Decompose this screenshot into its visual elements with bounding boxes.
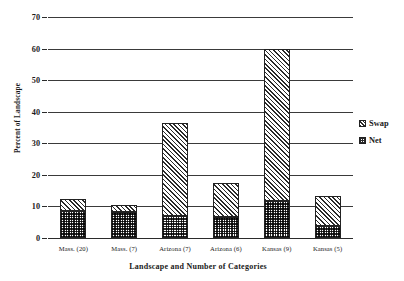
- legend-swatch-net-icon: [359, 137, 366, 144]
- bar-segment-swap: [264, 49, 290, 201]
- y-axis-tick-label: 60: [32, 44, 40, 53]
- bar-segment-swap: [315, 196, 341, 226]
- y-axis-tick: [42, 49, 47, 50]
- x-axis-tick-label: Arizona (6): [210, 245, 242, 252]
- gridline: [48, 112, 353, 113]
- gridline: [48, 80, 353, 81]
- x-axis-title: Landscape and Number of Categories: [38, 262, 358, 271]
- bar-segment-swap: [162, 123, 188, 216]
- bar-segment-net: [60, 211, 86, 238]
- y-axis-tick-label: 70: [32, 13, 40, 22]
- gridline: [48, 206, 353, 207]
- plot-area: 010203040506070 Mass. (20)Mass. (7)Arizo…: [48, 17, 353, 238]
- bar-segment-swap: [111, 205, 137, 213]
- legend-item-swap: Swap: [359, 116, 404, 130]
- legend-label-swap: Swap: [369, 119, 389, 128]
- y-axis-tick-label: 30: [32, 139, 40, 148]
- bar-group: Kansas (9): [264, 17, 290, 238]
- x-axis-tick-label: Arizona (7): [159, 245, 191, 252]
- bar-group: Mass. (7): [111, 17, 137, 238]
- y-axis-tick-label: 0: [36, 234, 40, 243]
- bar-group: Arizona (7): [162, 17, 188, 238]
- y-axis-tick: [42, 17, 47, 18]
- y-axis-tick: [42, 80, 47, 81]
- y-axis-tick: [42, 206, 47, 207]
- bar-segment-net: [111, 212, 137, 238]
- chart-legend: Swap Net: [359, 116, 404, 150]
- x-axis-tick-label: Mass. (7): [111, 245, 137, 252]
- bar-group: Mass. (20): [60, 17, 86, 238]
- y-axis-tick-label: 40: [32, 107, 40, 116]
- x-axis-tick-label: Mass. (20): [59, 245, 88, 252]
- bar-chart: Percent of Landscape 010203040506070 Mas…: [0, 0, 404, 281]
- gridline: [48, 143, 353, 144]
- x-axis-tick-label: Kansas (9): [262, 245, 291, 252]
- x-axis-tick-label: Kansas (5): [313, 245, 342, 252]
- y-axis-tick: [42, 175, 47, 176]
- y-axis-title: Percent of Landscape: [14, 48, 22, 188]
- y-axis-tick-label: 20: [32, 170, 40, 179]
- bar-group: Kansas (5): [315, 17, 341, 238]
- y-axis-tick-label: 50: [32, 76, 40, 85]
- legend-item-net: Net: [359, 133, 404, 147]
- y-axis-tick-label: 10: [32, 202, 40, 211]
- bar-segment-swap: [213, 183, 239, 216]
- gridline: [48, 17, 353, 18]
- x-axis-baseline: [48, 238, 353, 239]
- y-axis-tick: [42, 238, 47, 239]
- gridline: [48, 175, 353, 176]
- bar-segment-net: [264, 201, 290, 238]
- gridline: [48, 49, 353, 50]
- bar-segment-net: [315, 226, 341, 238]
- bar-group: Arizona (6): [213, 17, 239, 238]
- y-axis-tick: [42, 112, 47, 113]
- bar-segment-net: [213, 217, 239, 238]
- y-axis-tick: [42, 143, 47, 144]
- bar-segment-swap: [60, 199, 86, 211]
- bar-segment-net: [162, 216, 188, 238]
- legend-label-net: Net: [369, 136, 382, 145]
- legend-swatch-swap-icon: [359, 120, 366, 127]
